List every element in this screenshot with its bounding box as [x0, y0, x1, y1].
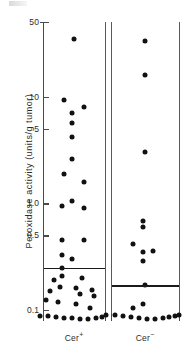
data-point [121, 313, 126, 318]
data-point [94, 315, 99, 320]
y-tick-0.5 [43, 235, 49, 236]
data-point [60, 273, 65, 278]
data-point [90, 287, 95, 292]
y-tick-0.1 [43, 310, 49, 311]
group-label-cer-minus: Cer− [136, 331, 155, 343]
data-point [60, 203, 65, 208]
data-point [48, 289, 53, 294]
data-point [131, 241, 136, 246]
data-point [62, 98, 67, 103]
panel-separator-left [105, 22, 106, 314]
data-point [141, 219, 146, 224]
group-label-cer-minus-base: Cer [136, 333, 151, 343]
data-point [141, 225, 146, 230]
data-point [151, 248, 156, 253]
y-tick-10 [43, 97, 49, 98]
y-tick-label-0.1: 0.1 [0, 305, 39, 315]
data-point [143, 150, 148, 155]
data-point [143, 72, 148, 77]
group-label-cer-plus-base: Cer [65, 333, 80, 343]
data-point [80, 275, 85, 280]
data-point [143, 39, 148, 44]
data-point [177, 312, 182, 317]
data-point [78, 316, 83, 321]
data-point [131, 305, 136, 310]
y-tick-label-50: 50 [0, 17, 39, 27]
data-point [137, 316, 142, 321]
data-point [70, 111, 75, 116]
data-point [141, 258, 146, 263]
data-point [46, 313, 51, 318]
data-point [54, 315, 59, 320]
y-axis-bottom-tick [43, 314, 44, 321]
data-point [82, 238, 87, 243]
data-point [86, 316, 91, 321]
data-point [70, 199, 75, 204]
data-point [113, 313, 118, 318]
data-point [60, 238, 65, 243]
data-point [141, 301, 146, 306]
scan-artifact [9, 1, 27, 6]
data-point [44, 297, 49, 302]
data-point [38, 313, 43, 318]
data-point [74, 286, 79, 291]
data-point [56, 299, 61, 304]
data-point [167, 315, 172, 320]
data-point [58, 284, 63, 289]
data-point [62, 316, 67, 321]
scatter-plot-figure: 501051.00.50.1 Peroxidase activity (unit… [0, 0, 187, 354]
data-point [82, 104, 87, 109]
group-label-cer-plus-sup: + [79, 331, 83, 338]
data-point [70, 257, 75, 262]
data-point [92, 294, 97, 299]
data-point [78, 292, 83, 297]
data-point [70, 316, 75, 321]
panel-right-edge [179, 22, 180, 314]
group-label-cer-plus: Cer+ [65, 331, 84, 343]
data-point [70, 120, 75, 125]
data-point [62, 171, 67, 176]
data-point [141, 249, 146, 254]
data-point [72, 36, 77, 41]
y-axis-line [43, 22, 44, 314]
y-tick-1.0 [43, 203, 49, 204]
data-point [82, 179, 87, 184]
data-point [82, 206, 87, 211]
y-axis-title: Peroxidase activity (units/g tumor) [24, 46, 34, 296]
group-label-cer-minus-sup: − [150, 331, 154, 338]
median-line-cer-minus [112, 285, 179, 286]
data-point [52, 278, 57, 283]
data-point [60, 252, 65, 257]
data-point [129, 315, 134, 320]
data-point [70, 134, 75, 139]
data-point [70, 157, 75, 162]
data-point [153, 316, 158, 321]
data-point [104, 313, 109, 318]
panel-separator-right [111, 22, 112, 314]
y-tick-50 [43, 22, 49, 23]
data-point [145, 316, 150, 321]
data-point [161, 315, 166, 320]
data-point [74, 301, 79, 306]
median-line-cer-plus [44, 268, 105, 269]
data-point [88, 305, 93, 310]
y-tick-5 [43, 129, 49, 130]
